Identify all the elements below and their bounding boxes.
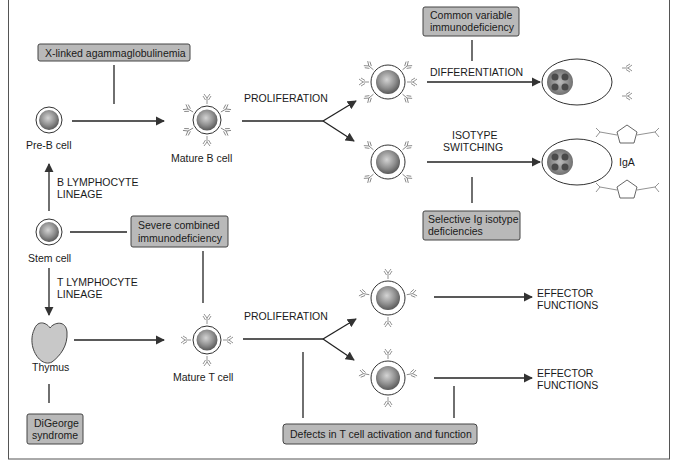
disease-box-digeorge: DiGeorge syndrome: [27, 414, 83, 444]
iga-dimer-top: [596, 125, 659, 143]
t-lineage-label-1: T LYMPHOCYTE: [57, 276, 138, 288]
secreted-antibodies-top: [622, 64, 632, 100]
b-lineage-label-1: B LYMPHOCYTE: [57, 176, 139, 188]
mature-b-cell: [182, 94, 231, 146]
effector-label-2a: EFFECTOR: [537, 367, 594, 379]
thymus: [32, 323, 67, 363]
svg-text:Common variable: Common variable: [430, 9, 512, 21]
effector-label-1b: FUNCTIONS: [537, 299, 598, 311]
pre-b-cell: [36, 107, 62, 133]
disease-box-t-cell-defects: Defects in T cell activation and functio…: [283, 424, 477, 444]
svg-text:immunodeficiency: immunodeficiency: [430, 21, 515, 33]
t-cell-effector-bottom: [359, 349, 418, 407]
disease-box-xla: X-linked agammaglobulinemia: [38, 44, 190, 61]
t-cell-effector-top: [359, 269, 418, 327]
t-proliferation-label: PROLIFERATION: [244, 310, 328, 322]
disease-box-selective-ig: Selective Ig isotype deficiencies: [423, 211, 520, 240]
pre-b-cell-label: Pre-B cell: [26, 139, 72, 151]
mature-t-cell: [181, 314, 233, 366]
svg-text:X-linked agammaglobulinemia: X-linked agammaglobulinemia: [45, 47, 186, 59]
isotype-label-2: SWITCHING: [443, 141, 503, 153]
disease-box-cvid: Common variable immunodeficiency: [423, 7, 519, 36]
stem-cell-label: Stem cell: [28, 252, 71, 264]
isotype-label-1: ISOTYPE: [452, 129, 498, 141]
plasma-cell-top: [542, 59, 612, 105]
svg-text:syndrome: syndrome: [32, 429, 78, 441]
plasma-cell-bottom: [542, 139, 612, 185]
b-cell-differentiating: [359, 60, 417, 103]
mature-t-cell-label: Mature T cell: [173, 371, 233, 383]
svg-text:Severe combined: Severe combined: [138, 219, 220, 231]
iga-dimer-bottom: [596, 180, 659, 198]
t-lineage-label-2: LINEAGE: [57, 288, 103, 300]
effector-label-1a: EFFECTOR: [537, 287, 594, 299]
svg-text:Defects in T cell activation a: Defects in T cell activation and functio…: [290, 428, 472, 440]
b-cell-isotype-switching: [363, 140, 413, 183]
thymus-label: Thymus: [32, 361, 69, 373]
disease-box-scid: Severe combined immunodeficiency: [131, 216, 228, 247]
differentiation-label: DIFFERENTIATION: [430, 66, 523, 78]
b-proliferation-label: PROLIFERATION: [244, 92, 328, 104]
iga-label: IgA: [619, 156, 635, 168]
mature-b-cell-label: Mature B cell: [171, 152, 232, 164]
effector-label-2b: FUNCTIONS: [537, 379, 598, 391]
svg-text:deficiencies: deficiencies: [428, 225, 483, 237]
svg-text:immunodeficiency: immunodeficiency: [138, 232, 223, 244]
svg-text:DiGeorge: DiGeorge: [34, 417, 79, 429]
svg-text:Selective Ig isotype: Selective Ig isotype: [428, 213, 519, 225]
stem-cell: [36, 219, 62, 245]
immune-development-diagram: X-linked agammaglobulinemia Pre-B cell M…: [0, 0, 678, 466]
b-lineage-label-2: LINEAGE: [57, 188, 103, 200]
